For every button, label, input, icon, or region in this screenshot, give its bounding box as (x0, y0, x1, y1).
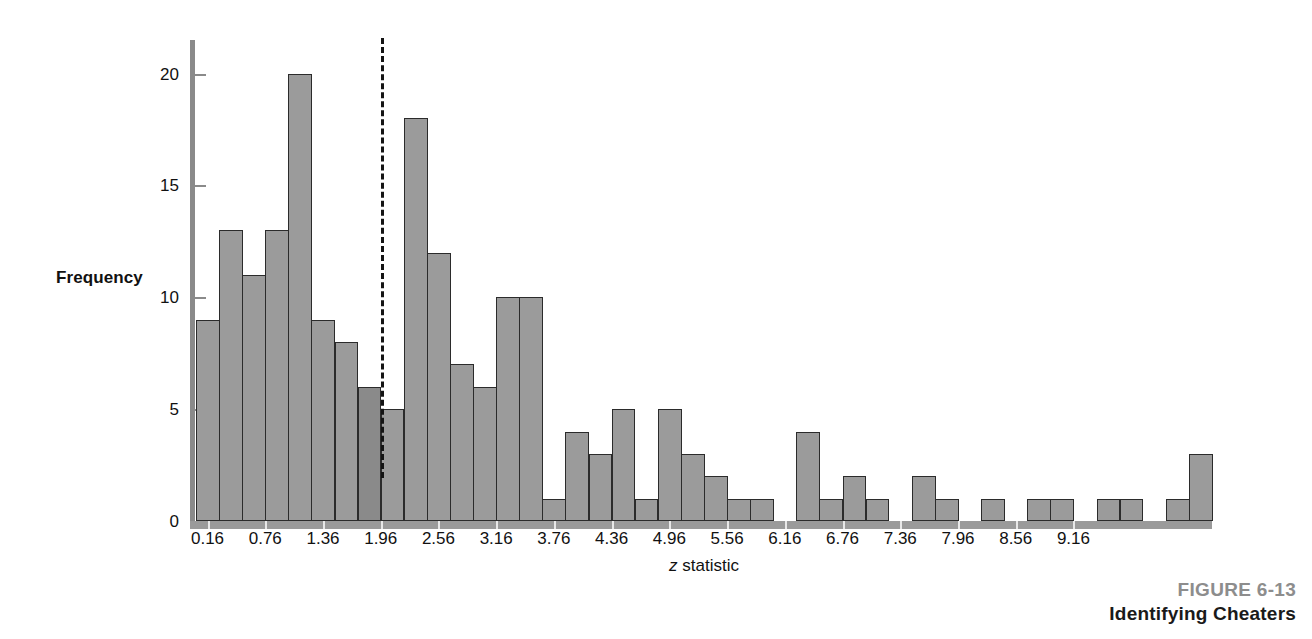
histogram-bar (473, 387, 497, 521)
histogram-bar (1189, 454, 1213, 521)
x-axis-tick-label: 0.76 (249, 529, 282, 549)
x-axis-tick (843, 521, 845, 529)
histogram-bar (381, 409, 405, 521)
y-axis-tick-label: 20 (160, 65, 179, 82)
figure-caption: FIGURE 6-13 Identifying Cheaters (1109, 578, 1296, 626)
x-axis-tick (1073, 521, 1075, 529)
y-axis-tick-label: 0 (170, 513, 179, 530)
histogram-bar (1097, 499, 1121, 521)
histogram-bar (265, 230, 289, 521)
y-axis-tick-label: 10 (160, 289, 179, 306)
histogram-bar (242, 275, 266, 521)
x-axis-tick-label: 8.56 (999, 529, 1032, 549)
figure-number: FIGURE 6-13 (1109, 578, 1296, 602)
histogram-bar (727, 499, 751, 521)
histogram-bar (1027, 499, 1051, 521)
histogram-bar (519, 297, 543, 521)
histogram-bar (935, 499, 959, 521)
histogram-bar (219, 230, 243, 521)
histogram-bar (1166, 499, 1190, 521)
histogram-bar (704, 476, 728, 521)
x-axis-tick (496, 521, 498, 529)
histogram-bar (819, 499, 843, 521)
histogram-bar (1120, 499, 1144, 521)
histogram-bar (750, 499, 774, 521)
x-axis-tick-label: 6.76 (826, 529, 859, 549)
x-axis-tick-label: 4.96 (653, 529, 686, 549)
x-axis-tick (669, 521, 671, 529)
x-axis-tick (958, 521, 960, 529)
x-axis-tick-label: 1.96 (364, 529, 397, 549)
figure-container: Frequency 05101520 0.160.761.361.962.563… (0, 0, 1312, 639)
x-axis-tick (1016, 521, 1018, 529)
histogram-bar (589, 454, 613, 521)
histogram-bar (311, 320, 335, 521)
x-axis-tick-label: 3.16 (480, 529, 513, 549)
histogram-bar (565, 432, 589, 521)
x-axis-tick (208, 521, 210, 529)
figure-title: Identifying Cheaters (1109, 602, 1296, 626)
x-axis-tick (727, 521, 729, 529)
x-axis-tick-label: 7.96 (941, 529, 974, 549)
x-axis-symbol: z (669, 556, 678, 575)
histogram-bar (496, 297, 520, 521)
histogram-bar (635, 499, 659, 521)
plot-area: 05101520 0.160.761.361.962.563.163.764.3… (196, 40, 1212, 521)
x-axis-tick (785, 521, 787, 529)
x-axis-tick (323, 521, 325, 529)
critical-value-line (381, 38, 384, 478)
histogram-bar (288, 74, 312, 521)
x-axis-tick (612, 521, 614, 529)
x-axis-tick-label: 7.36 (884, 529, 917, 549)
x-axis-tick (265, 521, 267, 529)
histogram-bar (450, 364, 474, 521)
bar-series (196, 40, 1212, 521)
histogram-bar (843, 476, 867, 521)
histogram-bar (427, 253, 451, 521)
y-axis-tick-label: 5 (170, 401, 179, 418)
histogram-bar (796, 432, 820, 521)
histogram-bar (658, 409, 682, 521)
histogram-bar (542, 499, 566, 521)
histogram-bar (912, 476, 936, 521)
histogram-bar (1050, 499, 1074, 521)
x-axis-tick (900, 521, 902, 529)
histogram-bar (358, 387, 382, 521)
x-axis-baseline (190, 521, 1212, 529)
x-axis-tick-label: 9.16 (1057, 529, 1090, 549)
histogram-bar (196, 320, 220, 521)
histogram-bar (404, 118, 428, 521)
x-axis-title-rest: statistic (678, 556, 739, 575)
x-axis-tick-label: 0.16 (191, 529, 224, 549)
y-axis-spine (190, 40, 195, 521)
y-axis-title: Frequency (56, 268, 143, 288)
x-axis-title: z statistic (196, 556, 1212, 576)
histogram-bar (612, 409, 636, 521)
x-axis-tick-label: 4.36 (595, 529, 628, 549)
x-axis-tick-label: 5.56 (711, 529, 744, 549)
x-axis-tick (554, 521, 556, 529)
histogram-bar (681, 454, 705, 521)
y-axis-tick-label: 15 (160, 177, 179, 194)
histogram-bar (335, 342, 359, 521)
histogram-bar (866, 499, 890, 521)
x-axis-tick-label: 6.16 (768, 529, 801, 549)
histogram-bar (981, 499, 1005, 521)
x-axis-tick-label: 3.76 (537, 529, 570, 549)
x-axis-tick-label: 1.36 (306, 529, 339, 549)
x-axis-tick-label: 2.56 (422, 529, 455, 549)
x-axis-tick (438, 521, 440, 529)
x-axis-tick (381, 521, 383, 529)
